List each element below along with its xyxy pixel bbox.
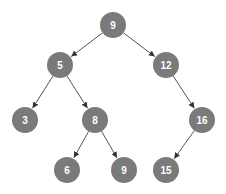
edge-arrow	[33, 76, 54, 108]
node-label: 9	[121, 165, 127, 176]
node-label: 9	[110, 20, 116, 31]
node-label: 6	[64, 165, 70, 176]
node-label: 15	[160, 165, 172, 176]
nodes-group: 951238166915	[12, 12, 215, 183]
node-label: 16	[196, 115, 208, 126]
node-label: 5	[57, 60, 63, 71]
edge-arrow	[74, 131, 89, 157]
tree-node: 15	[153, 157, 179, 183]
node-label: 8	[92, 115, 98, 126]
binary-tree-diagram: 951238166915	[0, 0, 226, 194]
edges-group	[33, 33, 195, 159]
edge-arrow	[102, 131, 117, 158]
tree-node: 16	[189, 107, 215, 133]
tree-node: 5	[47, 52, 73, 78]
edge-arrow	[173, 76, 194, 108]
tree-node: 9	[111, 157, 137, 183]
edge-arrow	[174, 131, 194, 159]
node-label: 12	[160, 60, 172, 71]
tree-node: 8	[82, 107, 108, 133]
tree-node: 9	[100, 12, 126, 38]
edge-arrow	[67, 76, 88, 108]
tree-node: 6	[54, 157, 80, 183]
edge-arrow	[123, 33, 154, 57]
tree-node: 12	[153, 52, 179, 78]
tree-node: 3	[12, 107, 38, 133]
edge-arrow	[71, 33, 102, 57]
node-label: 3	[22, 115, 28, 126]
